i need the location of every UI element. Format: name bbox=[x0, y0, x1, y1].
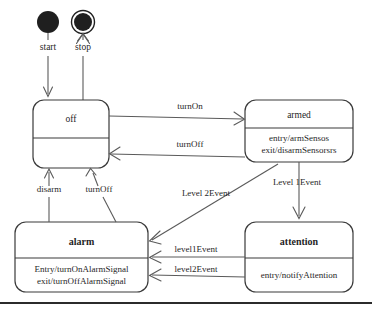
transition-start-to-off[interactable] bbox=[44, 56, 53, 97]
state-diagram-canvas: start stop off armed entry/armSensos exi… bbox=[0, 0, 372, 312]
transition-label-level2event: level2Event bbox=[175, 264, 218, 274]
transition-armed-to-off[interactable]: turnOff bbox=[110, 139, 246, 160]
transition-attention-to-alarm-level2[interactable]: level2Event bbox=[150, 264, 246, 281]
transition-label-level2event-upper: Level 2Event bbox=[182, 188, 231, 198]
state-attention-box bbox=[245, 222, 353, 292]
state-attention-name: attention bbox=[280, 236, 319, 247]
transition-armed-to-attention[interactable]: Level 1Event bbox=[273, 162, 322, 219]
initial-state-icon bbox=[37, 11, 59, 33]
transition-label-turnon: turnOn bbox=[177, 101, 203, 111]
state-attention[interactable]: attention entry/notifyAttention bbox=[245, 222, 353, 292]
initial-state-label: start bbox=[40, 42, 57, 52]
arrowhead-icon bbox=[86, 169, 96, 177]
transition-off-to-armed[interactable]: turnOn bbox=[109, 101, 245, 125]
transition-attention-to-alarm-level1[interactable]: level1Event bbox=[150, 244, 246, 263]
final-state-label: stop bbox=[75, 42, 91, 52]
state-off-box bbox=[33, 100, 109, 168]
final-state-icon bbox=[74, 13, 92, 31]
transition-label-turnoff: turnOff bbox=[177, 139, 204, 149]
state-armed-exit-action: exit/disarmSensorsrs bbox=[262, 145, 337, 155]
state-armed[interactable]: armed entry/armSensos exit/disarmSensors… bbox=[245, 100, 353, 162]
transition-alarm-to-off-disarm[interactable]: disarm bbox=[37, 169, 62, 222]
state-alarm-entry-action: Entry/turnOnAlarmSignal bbox=[35, 264, 129, 274]
final-state-marker[interactable] bbox=[72, 11, 95, 34]
state-off-name: off bbox=[66, 114, 78, 124]
state-attention-entry-action: entry/notifyAttention bbox=[261, 270, 338, 280]
state-diagram-svg: start stop off armed entry/armSensos exi… bbox=[0, 0, 372, 312]
initial-state-marker[interactable] bbox=[37, 11, 59, 33]
transition-label-disarm: disarm bbox=[37, 184, 62, 194]
transition-label-turnoff-lower: turnOff bbox=[86, 184, 113, 194]
transition-label-level1event: level1Event bbox=[175, 244, 218, 254]
state-alarm[interactable]: alarm Entry/turnOnAlarmSignal exit/turnO… bbox=[15, 222, 148, 292]
state-alarm-name: alarm bbox=[69, 236, 95, 247]
state-armed-entry-action: entry/armSensos bbox=[269, 133, 329, 143]
transition-alarm-to-off-turnoff[interactable]: turnOff bbox=[86, 169, 116, 223]
transition-label-level1event-upper: Level 1Event bbox=[273, 177, 322, 187]
state-armed-name: armed bbox=[287, 110, 311, 120]
state-off[interactable]: off bbox=[33, 100, 109, 168]
state-alarm-exit-action: exit/turnOffAlarmSignal bbox=[37, 276, 126, 286]
